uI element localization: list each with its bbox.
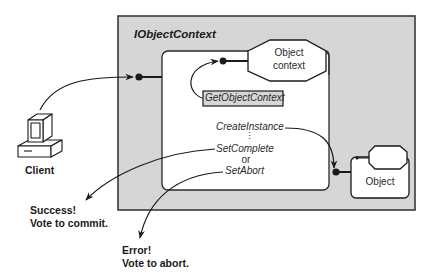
interface-title: IObjectContext — [134, 28, 216, 40]
client-computer-icon — [18, 114, 62, 157]
object-inner-dot — [356, 157, 359, 160]
error-line2: Vote to abort. — [122, 257, 189, 270]
or-label: or — [239, 154, 253, 165]
com-object-context-diagram — [0, 0, 437, 278]
error-line1: Error! — [122, 244, 151, 257]
object-context-label-line1: Object — [272, 47, 306, 58]
object-context-lollipop-dot — [220, 58, 227, 65]
success-line1: Success! — [30, 204, 76, 217]
set-abort-label: SetAbort — [225, 165, 264, 176]
success-line2: Vote to commit. — [30, 217, 108, 230]
client-label: Client — [25, 164, 54, 177]
object-context-label-line2: context — [268, 60, 310, 71]
object-label: Object — [360, 176, 400, 187]
get-object-context-label: GetObjectContext — [205, 92, 284, 103]
object-lollipop-dot — [332, 168, 339, 175]
object-inner-octagon — [369, 146, 407, 169]
interface-lollipop-dot — [135, 73, 142, 80]
set-complete-label: SetComplete — [216, 143, 274, 154]
ellipsis-label: ⋮ — [245, 131, 253, 141]
